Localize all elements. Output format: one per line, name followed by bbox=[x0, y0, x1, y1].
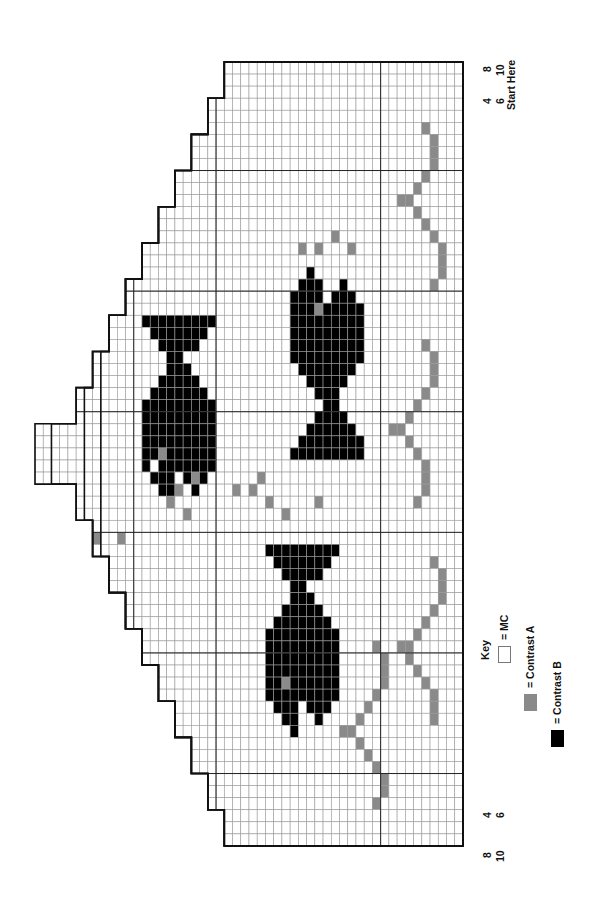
start-here-label: Start Here bbox=[505, 60, 517, 110]
size-label-bottom-10: 10 bbox=[494, 850, 506, 862]
size-label-bottom-8: 8 bbox=[481, 852, 493, 858]
key-title: Key bbox=[479, 640, 491, 660]
size-label-top-4: 4 bbox=[481, 98, 493, 104]
key-label-mc: = MC bbox=[498, 615, 510, 640]
size-label-bottom-6: 6 bbox=[494, 812, 506, 818]
size-label-bottom-4: 4 bbox=[481, 812, 493, 818]
key-swatch-mc bbox=[498, 646, 511, 663]
knitting-chart bbox=[0, 0, 598, 899]
key-label-contrast-b: = Contrast B bbox=[551, 661, 563, 724]
key-label-contrast-a: = Contrast A bbox=[524, 626, 536, 688]
size-label-top-8: 8 bbox=[481, 66, 493, 72]
key-swatch-contrast-b bbox=[551, 730, 564, 747]
key-swatch-contrast-a bbox=[524, 694, 537, 711]
grid-cells bbox=[35, 62, 463, 846]
